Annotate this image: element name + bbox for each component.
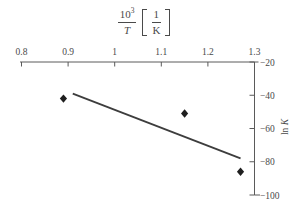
x-tick-label: 1 <box>112 47 117 57</box>
fit-line <box>73 94 241 159</box>
vant-hoff-plot-figure: 103 T 1 K 0.80.911.11.21.3−20−40−60−80−1… <box>0 0 306 210</box>
chart-canvas: 0.80.911.11.21.3−20−40−60−80−100ln K <box>0 0 306 210</box>
data-point <box>181 109 188 117</box>
y-axis-label: ln K <box>280 118 290 135</box>
data-point <box>237 168 244 176</box>
x-tick-label: 0.9 <box>62 47 74 57</box>
x-tick-label: 0.8 <box>16 47 28 57</box>
x-tick-label: 1.1 <box>155 47 167 57</box>
y-tick-label: −40 <box>260 91 275 101</box>
y-tick-label: −20 <box>260 58 275 68</box>
x-tick-label: 1.2 <box>202 47 214 57</box>
data-point <box>60 94 67 102</box>
y-tick-label: −60 <box>260 124 275 134</box>
y-tick-label: −80 <box>260 157 275 167</box>
y-tick-label: −100 <box>260 191 280 201</box>
x-tick-label: 1.3 <box>249 47 261 57</box>
